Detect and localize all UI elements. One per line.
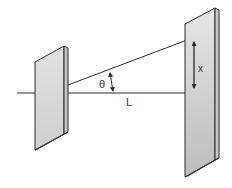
slit-plate <box>35 46 68 150</box>
displacement-label: x <box>198 63 203 74</box>
diagram-canvas: θ L x <box>0 0 232 188</box>
angle-arrow <box>110 73 113 91</box>
diffracted-ray <box>68 37 195 85</box>
diffraction-diagram: θ L x <box>0 0 232 188</box>
screen-plate <box>185 8 219 177</box>
theta-label: θ <box>99 78 105 90</box>
distance-label: L <box>126 96 132 108</box>
